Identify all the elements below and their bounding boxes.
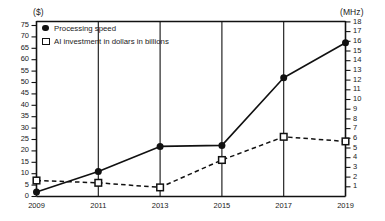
- right-tick-label: 8: [353, 115, 369, 123]
- x-tick-label-2015: 2015: [205, 201, 239, 210]
- x-tick-label-2009: 2009: [20, 201, 54, 210]
- right-tick-label: 17: [353, 27, 369, 35]
- left-tick-label: 55: [13, 67, 29, 75]
- right-tick-label: 7: [353, 124, 369, 132]
- left-tick-label: 35: [13, 112, 29, 120]
- left-tick-label: 45: [13, 89, 29, 97]
- series-ai-investment: [33, 134, 349, 191]
- legend-label: AI investment in dollars in billions: [54, 37, 169, 46]
- right-tick-label: 12: [353, 76, 369, 84]
- line-chart: ($) (MHz) 75 70 65 60 55 50 45 40 35 30 …: [0, 0, 385, 221]
- x-tick-label-2013: 2013: [143, 201, 177, 210]
- legend-label: Processing speed: [54, 24, 116, 33]
- right-tick-label: 11: [353, 85, 369, 93]
- left-tick-label: 5: [13, 181, 29, 189]
- right-tick-label: 9: [353, 105, 369, 113]
- right-tick-label: 18: [353, 18, 369, 26]
- filled-circle-icon: [41, 24, 50, 33]
- chart-legend: Processing speed AI investment in dollar…: [41, 22, 169, 48]
- right-tick-label: 15: [353, 47, 369, 55]
- right-tick-label: 13: [353, 66, 369, 74]
- open-square-icon: [41, 37, 50, 46]
- left-tick-label: 40: [13, 101, 29, 109]
- right-tick-label: 4: [353, 153, 369, 161]
- left-tick-label: 0: [13, 192, 29, 200]
- right-axis-unit-label: (MHz): [340, 7, 364, 17]
- legend-item-ai-investment: AI investment in dollars in billions: [41, 35, 169, 47]
- left-tick-label: 20: [13, 146, 29, 154]
- legend-item-processing-speed: Processing speed: [41, 22, 169, 34]
- x-tick-label-2017: 2017: [267, 201, 301, 210]
- right-tick-label: 6: [353, 134, 369, 142]
- left-tick-label: 30: [13, 124, 29, 132]
- right-tick-label: 16: [353, 37, 369, 45]
- right-tick-label: 14: [353, 56, 369, 64]
- left-tick-label: 70: [13, 32, 29, 40]
- left-tick-label: 10: [13, 169, 29, 177]
- x-tick-label-2019: 2019: [329, 201, 363, 210]
- left-tick-label: 50: [13, 78, 29, 86]
- left-tick-label: 25: [13, 135, 29, 143]
- right-tick-label: 10: [353, 95, 369, 103]
- left-tick-label: 60: [13, 55, 29, 63]
- left-axis-unit-label: ($): [33, 7, 44, 17]
- left-tick-label: 75: [13, 21, 29, 29]
- left-tick-label: 65: [13, 44, 29, 52]
- left-tick-label: 15: [13, 158, 29, 166]
- right-tick-label: 5: [353, 144, 369, 152]
- right-tick-label: 3: [353, 163, 369, 171]
- x-tick-label-2011: 2011: [81, 201, 115, 210]
- right-tick-label: 1: [353, 182, 369, 190]
- right-tick-label: 2: [353, 173, 369, 181]
- series-processing-speed: [33, 39, 349, 195]
